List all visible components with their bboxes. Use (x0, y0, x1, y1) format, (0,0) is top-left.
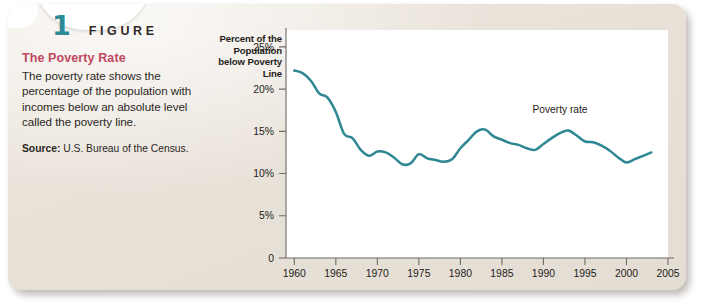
series-line-poverty-rate (294, 71, 651, 165)
figure-title: The Poverty Rate (22, 51, 210, 66)
x-tick-label: 1985 (490, 268, 513, 279)
data-series-group (294, 71, 651, 165)
y-tick-label: 25% (253, 42, 274, 53)
y-tick-label: 0 (268, 253, 274, 264)
y-tick-label: 20% (253, 84, 274, 95)
y-tick-label: 5% (259, 210, 274, 221)
figure-word-label: FIGURE (89, 24, 158, 38)
axis-lines (286, 28, 674, 258)
figure-number: 1 (52, 12, 71, 39)
source-label: Source: (22, 143, 60, 154)
series-annotation-label: Poverty rate (533, 104, 588, 115)
y-tick-label: 15% (253, 126, 274, 137)
x-tick-label: 1980 (449, 268, 472, 279)
poverty-rate-line-chart: 05%10%15%20%25% 196019651970197519801985… (204, 10, 680, 284)
y-axis-ticks: 05%10%15%20%25% (253, 42, 286, 264)
x-axis-ticks: 1960196519701975198019851990199520002005 (283, 258, 680, 279)
y-tick-label: 10% (253, 168, 274, 179)
x-tick-label: 1970 (366, 268, 389, 279)
figure-caption: The poverty rate shows the percentage of… (22, 68, 198, 130)
x-tick-label: 1990 (532, 268, 555, 279)
figure-text-column: 1 FIGURE The Poverty Rate The poverty ra… (22, 12, 210, 156)
chart-annotations: Poverty rate (533, 104, 588, 115)
figure-source: Source: U.S. Bureau of the Census. (22, 142, 194, 156)
figure-card: 1 FIGURE The Poverty Rate The poverty ra… (8, 4, 686, 290)
chart-region: Percent of thePopulationbelow PovertyLin… (204, 10, 680, 284)
x-tick-label: 1960 (283, 268, 306, 279)
x-tick-label: 2005 (656, 268, 679, 279)
source-text: U.S. Bureau of the Census. (63, 143, 188, 154)
x-tick-label: 2000 (615, 268, 638, 279)
figure-heading: 1 FIGURE (22, 12, 210, 42)
x-tick-label: 1975 (407, 268, 430, 279)
x-tick-label: 1965 (324, 268, 347, 279)
x-tick-label: 1995 (573, 268, 596, 279)
